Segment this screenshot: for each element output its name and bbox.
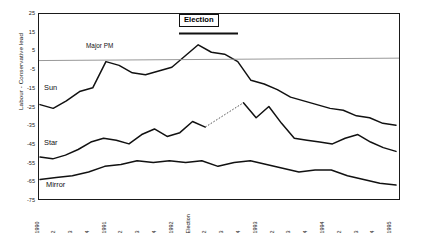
series-paths [40, 45, 396, 185]
x-tick-label: 2 [336, 230, 341, 233]
x-tick-label: 1992 [168, 221, 173, 233]
x-tick-label: 2 [51, 230, 56, 233]
series-line-star [40, 121, 205, 158]
annotation-major-pm: Major PM [86, 42, 113, 49]
zero-reference-line [39, 58, 399, 60]
series-line-mirror [40, 161, 396, 185]
x-tick-label: 1993 [252, 221, 257, 233]
annotation-election-box: Election [179, 14, 219, 27]
x-tick-label: 4 [152, 230, 157, 233]
x-tick-label: 4 [370, 230, 375, 233]
x-tick-label: 3 [68, 230, 73, 233]
series-gap-connector-star [205, 103, 243, 127]
x-tick-label: 2 [202, 230, 207, 233]
series-label-star: Star [44, 138, 58, 147]
x-tick-label: 1994 [320, 221, 325, 233]
x-tick-label: 3 [135, 230, 140, 233]
series-label-sun: Sun [44, 83, 57, 92]
x-tick-label: 3 [219, 230, 224, 233]
series-line-star [243, 103, 396, 152]
x-tick-label: 1991 [101, 221, 106, 233]
chart-lines-layer [0, 0, 424, 233]
x-tick-label: 1990 [34, 221, 39, 233]
x-tick-label: 1995 [387, 221, 392, 233]
x-tick-label: 3 [286, 230, 291, 233]
x-tick-label: 2 [269, 230, 274, 233]
chart-root: Labour - Conservative lead 25155-5-15-25… [0, 0, 424, 233]
x-tick-label: 3 [353, 230, 358, 233]
x-tick-label: 4 [303, 230, 308, 233]
x-tick-label: 4 [236, 230, 241, 233]
x-tick-label: 2 [118, 230, 123, 233]
series-label-mirror: Mirror [46, 180, 65, 189]
x-tick-label: Election [185, 214, 190, 233]
series-line-sun [40, 45, 396, 125]
x-tick-label: 4 [84, 230, 89, 233]
x-axis-ticks: 199023419912341992Election23419932341994… [0, 202, 424, 233]
